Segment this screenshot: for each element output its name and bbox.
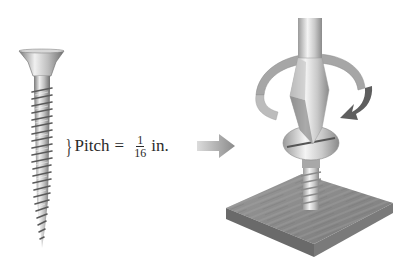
equals-sign: = — [115, 136, 125, 156]
pitch-label: Pitch — [75, 136, 110, 156]
fraction-denominator: 16 — [133, 147, 147, 159]
diagram-graphics — [0, 0, 414, 273]
brace-glyph: } — [65, 135, 72, 158]
pitch-fraction: 1 16 — [133, 134, 147, 159]
fraction-numerator: 1 — [136, 134, 144, 147]
pitch-annotation: } Pitch = 1 16 in. — [64, 131, 169, 161]
screwdriver — [290, 18, 329, 144]
direction-arrow-icon — [197, 134, 235, 158]
pitch-unit: in. — [151, 136, 168, 156]
screw-pitch-diagram: } Pitch = 1 16 in. — [0, 0, 414, 273]
wood-screw — [19, 49, 64, 248]
screw-in-wood — [301, 158, 321, 210]
